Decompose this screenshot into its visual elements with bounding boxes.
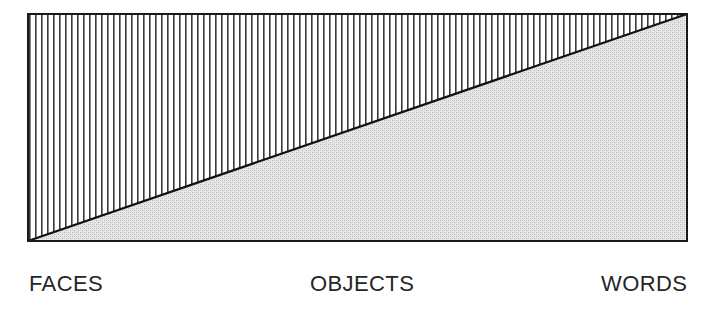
axis-label-objects: OBJECTS xyxy=(310,272,414,296)
axis-label-faces: FACES xyxy=(29,272,103,296)
figure-container: FACES OBJECTS WORDS xyxy=(0,0,706,322)
axis-label-words: WORDS xyxy=(601,272,687,296)
